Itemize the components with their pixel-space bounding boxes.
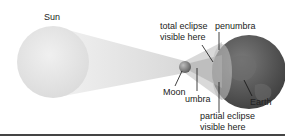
moon bbox=[179, 61, 191, 73]
label-moon: Moon bbox=[163, 87, 186, 97]
label-partial-eclipse-1: partial eclipse bbox=[200, 111, 255, 121]
bottom-rule bbox=[0, 134, 285, 136]
sun bbox=[17, 26, 89, 98]
label-total-eclipse-2: visible here bbox=[160, 32, 206, 42]
label-umbra: umbra bbox=[185, 94, 211, 104]
label-total-eclipse-1: total eclipse bbox=[160, 21, 208, 31]
label-partial-eclipse-2: visible here bbox=[200, 122, 246, 132]
label-penumbra: penumbra bbox=[215, 21, 256, 31]
label-earth: Earth bbox=[250, 97, 272, 107]
penumbra-on-earth bbox=[212, 44, 232, 100]
label-sun: Sun bbox=[44, 12, 60, 22]
